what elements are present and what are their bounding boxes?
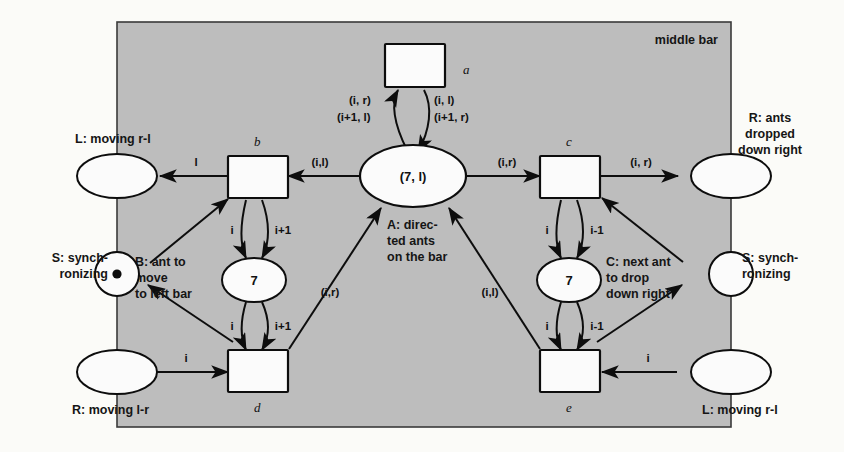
arc-label-c-to-right-out: (i, r) [630,156,652,168]
transition-d[interactable] [228,350,288,392]
place-left-moving-lr-label: R: moving l-r [72,403,149,417]
middle-bar-label: middle bar [655,33,718,47]
arc-label-b-counter-up: i [230,224,233,236]
transition-c-name: c [566,134,572,149]
place-center-label-line1: A: direc- [387,218,438,232]
place-left-sync-label-line2: ronizing [59,267,108,281]
place-left-counter-label-line1: B: ant to [135,255,186,269]
place-left-moving-lr[interactable] [77,350,157,394]
arc-label-d-counter-up: i [230,320,233,332]
arc-label-center-to-b: (i,l) [311,156,328,168]
place-right-counter-label-line2: to drop [606,271,649,285]
place-right-counter-label-line1: C: next ant [606,255,671,269]
transition-d-name: d [254,400,261,415]
transition-b-name: b [254,134,261,149]
place-right-moving-rl[interactable] [691,350,771,394]
place-left-moving-rl-label: L: moving r-l [75,132,151,146]
place-left-moving-rl[interactable] [77,154,157,198]
arc-label-leftin-to-d: i [184,352,187,364]
place-right-dropped-label-line1: R: ants [749,111,791,125]
place-right-dropped-label-line2: dropped [745,127,795,141]
transition-e-name: e [566,400,572,415]
arc-label-center-to-c: (i,r) [498,156,517,168]
arc-label-e-counter-up: i [545,320,548,332]
arc-label-c-counter-down: i-1 [590,224,604,236]
place-right-dropped[interactable] [691,154,771,198]
arc-label-b-to-left-out: l [194,156,197,168]
transition-a[interactable] [385,44,445,87]
figure-canvas: middle bar a (7, l) A: direc- ted ants o… [0,0,844,452]
petri-net-diagram: middle bar a (7, l) A: direc- ted ants o… [0,0,844,452]
arc-label-d-to-center: (i,r) [321,286,340,298]
place-left-counter-marking: 7 [250,273,257,288]
place-center-marking: (7, l) [400,169,427,184]
place-center-label-line3: on the bar [387,250,448,264]
token-dot [112,269,121,278]
arc-label-b-counter-down: i+1 [275,224,292,236]
arc-label-e-counter-down: i-1 [590,320,604,332]
place-right-counter-marking: 7 [565,273,572,288]
arc-label-d-counter-down: i+1 [275,320,292,332]
place-left-sync-label-line1: S: synch- [52,251,108,265]
arc-label-a-right-1: (i, l) [434,94,455,106]
arc-label-a-left-1: (i, r) [349,94,371,106]
transition-e[interactable] [540,350,600,392]
transition-a-name: a [463,62,470,77]
arc-label-e-to-center: (i,l) [481,286,498,298]
place-center-label-line2: ted ants [387,234,435,248]
transition-b[interactable] [228,156,288,198]
arc-label-c-counter-up: i [545,224,548,236]
place-right-moving-rl-label: L: moving r-l [702,403,778,417]
transition-c[interactable] [540,156,600,198]
place-right-dropped-label-line3: down right [738,143,803,157]
arc-label-rightin-to-e: i [646,352,649,364]
place-right-counter-label-line3: down right [606,287,671,301]
place-right-sync-label-line2: ronizing [742,267,791,281]
arc-label-a-right-2: (i+1, r) [434,111,469,123]
arc-label-a-left-2: (i+1, l) [337,111,371,123]
place-left-counter-label-line3: to left bar [135,287,192,301]
place-right-sync-label-line1: S: synch- [742,251,798,265]
